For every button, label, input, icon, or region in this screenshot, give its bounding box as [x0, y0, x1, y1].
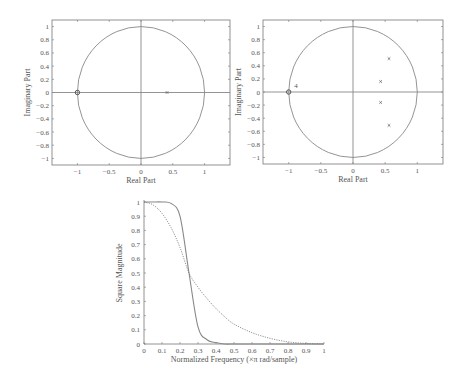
y-tick-label: −0.2 [247, 102, 260, 110]
dotted-response-curve [144, 202, 324, 344]
y-tick-label: −0.4 [247, 115, 260, 123]
y-tick-label: 0 [46, 89, 50, 97]
y-tick-label: −0.8 [36, 142, 49, 150]
pole-zero-plot-right: −1−0.500.5110.80.60.40.20−0.2−0.4−0.6−0.… [234, 20, 443, 184]
x-tick-label: 0.5 [230, 347, 239, 355]
y-tick-label: 0.9 [131, 213, 140, 221]
x-axis-label: Real Part [338, 175, 368, 184]
x-tick-label: 1 [203, 168, 207, 176]
y-tick-label: 0.7 [131, 241, 140, 249]
y-tick-label: 0.4 [251, 62, 260, 70]
x-tick-label: 0.3 [194, 347, 203, 355]
y-tick-label: 0.2 [131, 312, 140, 320]
y-tick-label: 0.1 [131, 326, 140, 334]
y-tick-label: 0.6 [40, 49, 49, 57]
x-tick-label: 1 [322, 347, 326, 355]
y-tick-label: 0.3 [131, 298, 140, 306]
x-tick-label: 0 [139, 168, 143, 176]
figure: −1−0.500.5110.80.60.40.20−0.2−0.4−0.6−0.… [0, 0, 468, 381]
y-tick-label: 0.6 [131, 255, 140, 263]
y-tick-label: 0.4 [40, 63, 49, 71]
y-axis-label: Imaginary Part [234, 67, 243, 116]
y-tick-label: −1 [42, 155, 50, 163]
x-tick-label: 0 [142, 347, 146, 355]
y-tick-label: 1 [257, 23, 261, 31]
x-tick-label: −1 [74, 168, 82, 176]
y-tick-label: 0.2 [251, 75, 260, 83]
pole-marker [388, 124, 391, 127]
pole-zero-plot-left: −1−0.500.5110.80.60.40.20−0.2−0.4−0.6−0.… [23, 20, 230, 185]
x-axis-label: Normalized Frequency (×π rad/sample) [171, 355, 298, 364]
multiplicity-label: 4 [294, 82, 298, 90]
x-tick-label: 0.1 [158, 347, 167, 355]
y-tick-label: 0.8 [40, 36, 49, 44]
y-tick-label: 0.6 [251, 49, 260, 57]
solid-response-curve [144, 202, 324, 344]
y-tick-label: 0.8 [251, 36, 260, 44]
x-tick-label: −0.5 [103, 168, 116, 176]
y-tick-label: 1 [46, 23, 50, 31]
x-tick-label: 0.5 [168, 168, 177, 176]
x-tick-label: 1 [416, 167, 420, 175]
pole-marker [388, 57, 391, 60]
y-tick-label: 0.8 [131, 227, 140, 235]
y-tick-label: −1 [253, 154, 261, 162]
x-tick-label: 0.5 [381, 167, 390, 175]
x-tick-label: −1 [285, 167, 293, 175]
square-magnitude-plot: 00.10.20.30.40.50.60.70.80.9110.90.80.70… [115, 199, 326, 365]
y-tick-label: 0.2 [40, 76, 49, 84]
y-tick-label: −0.6 [247, 128, 260, 136]
x-axis-label: Real Part [126, 176, 156, 185]
y-axis-label: Square Magnitude [115, 243, 124, 302]
x-tick-label: 0.6 [248, 347, 257, 355]
pole-marker [379, 80, 382, 83]
x-tick-label: 0.4 [212, 347, 221, 355]
y-tick-label: 0.4 [131, 284, 140, 292]
x-tick-label: 0 [351, 167, 355, 175]
y-tick-label: 0.5 [131, 270, 140, 278]
y-axis-label: Imaginary Part [23, 68, 32, 117]
x-tick-label: 0.9 [302, 347, 311, 355]
x-tick-label: −0.5 [315, 167, 328, 175]
x-tick-label: 0.8 [284, 347, 293, 355]
y-tick-label: 0 [137, 341, 141, 349]
y-tick-label: −0.2 [36, 102, 49, 110]
x-tick-label: 0.7 [266, 347, 275, 355]
y-tick-label: −0.4 [36, 115, 49, 123]
y-tick-label: 0 [257, 89, 261, 97]
pole-marker [379, 101, 382, 104]
y-tick-label: −0.6 [36, 129, 49, 137]
y-tick-label: 1 [137, 199, 141, 207]
y-tick-label: −0.8 [247, 141, 260, 149]
x-tick-label: 0.2 [176, 347, 185, 355]
